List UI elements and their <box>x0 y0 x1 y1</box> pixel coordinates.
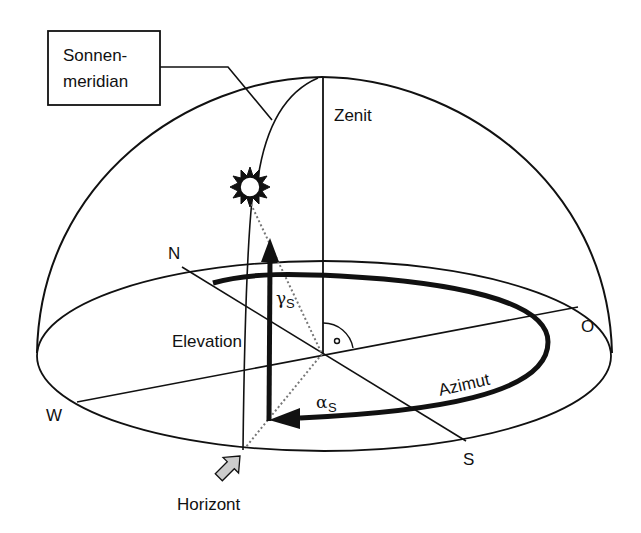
callout-line-2: meridian <box>63 72 128 91</box>
elevation-angle-label: γ S <box>276 288 295 311</box>
svg-text:S: S <box>328 400 337 415</box>
horizon-label: Horizont <box>177 495 241 514</box>
right-angle-marker-icon <box>323 323 353 348</box>
horizon-ellipse <box>37 261 611 451</box>
horizon-pointer-arrow-icon <box>211 448 248 485</box>
east-label: O <box>581 317 594 336</box>
south-label: S <box>463 450 474 469</box>
west-label: W <box>46 406 62 425</box>
callout-line-1: Sonnen- <box>63 46 127 65</box>
sun-path-azimuth-arc <box>213 274 548 418</box>
elevation-label: Elevation <box>172 332 242 351</box>
celestial-hemisphere-diagram: Sonnen- meridian Zenit N O W S Elevation… <box>0 0 641 533</box>
azimuth-arrowhead <box>269 408 300 429</box>
elevation-arrow <box>269 260 270 421</box>
zenith-label: Zenit <box>334 106 372 125</box>
sun-icon <box>230 167 270 207</box>
sun-meridian-callout-box <box>48 31 160 105</box>
svg-text:S: S <box>286 296 295 311</box>
callout-leader-line <box>160 67 272 120</box>
elevation-arrowhead <box>261 238 279 262</box>
azimuth-angle-label: α S <box>316 392 337 415</box>
svg-text:γ: γ <box>276 288 286 308</box>
svg-text:α: α <box>316 392 328 412</box>
north-label: N <box>168 244 180 263</box>
